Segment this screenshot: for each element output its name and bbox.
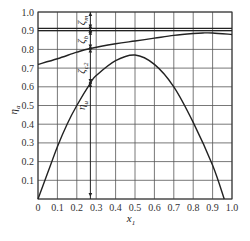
x-tick-label: 0.3: [90, 202, 103, 213]
y-tick-label: 0.7: [22, 63, 35, 74]
y-tick-label: 0.3: [22, 137, 35, 148]
y-axis-label: ηa: [7, 105, 22, 114]
y-tick-label: 1.0: [22, 7, 35, 18]
zeta-m-label: ζm: [75, 16, 90, 26]
x-axis-label: x1: [126, 212, 135, 227]
intersection-dot: [89, 81, 92, 84]
x-tick-label: 0.4: [109, 202, 122, 213]
series-line: [38, 55, 224, 199]
y-tick-label: 0.4: [22, 119, 35, 130]
x-tick-label: 0.2: [71, 202, 84, 213]
y-tick-label: 0.5: [22, 100, 35, 111]
y-tick-label: 0.6: [22, 81, 35, 92]
efficiency-chart: ζmζbζc2ηu 00.10.20.30.40.50.60.70.80.91.…: [0, 0, 250, 241]
y-tick-label: 0.2: [22, 156, 35, 167]
x-tick-label: 0.1: [51, 202, 64, 213]
grid: [38, 12, 232, 199]
eta-u-label: ηu: [75, 101, 90, 110]
x-tick-label: 0: [36, 202, 41, 213]
zeta-b-label: ζb: [75, 35, 90, 43]
x-tick-label: 0.6: [148, 202, 161, 213]
arrow-down-icon: [89, 193, 93, 197]
annotations: ζmζbζc2ηu: [75, 12, 92, 199]
arrow-up-icon: [89, 12, 93, 16]
x-tick-label: 0.9: [206, 202, 219, 213]
x-tick-label: 0.8: [187, 202, 200, 213]
tick-labels: 00.10.20.30.40.50.60.70.80.91.00.10.20.3…: [22, 7, 239, 214]
intersection-dot: [89, 47, 92, 50]
x-tick-label: 0.7: [168, 202, 181, 213]
y-tick-label: 0.9: [22, 25, 35, 36]
y-tick-label: 0.1: [22, 175, 35, 186]
y-tick-label: 0.8: [22, 44, 35, 55]
x-tick-label: 1.0: [226, 202, 239, 213]
